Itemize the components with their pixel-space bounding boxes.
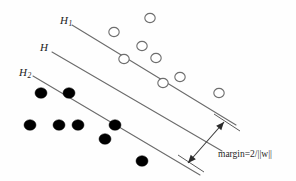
open-circle-marker bbox=[137, 41, 147, 50]
filled-dot-marker bbox=[136, 156, 148, 167]
filled-dot-marker bbox=[72, 120, 84, 131]
open-circle-marker bbox=[151, 53, 161, 62]
hyperplane-label-h: H bbox=[39, 41, 49, 53]
filled-dot-marker bbox=[109, 120, 121, 131]
open-circle-marker bbox=[145, 13, 155, 22]
filled-dot-marker bbox=[53, 120, 65, 131]
figure-canvas: H1HH2 margin=2/||w|| bbox=[0, 0, 296, 181]
margin-caption-label: margin=2/||w|| bbox=[218, 149, 272, 159]
filled-dot-marker bbox=[35, 88, 47, 99]
filled-dot-marker bbox=[99, 134, 111, 145]
open-circle-marker bbox=[109, 27, 119, 36]
open-circle-marker bbox=[214, 88, 224, 97]
filled-dot-marker bbox=[24, 120, 36, 131]
margin-caption-group: margin=2/||w|| bbox=[218, 149, 272, 159]
open-circle-marker bbox=[158, 78, 168, 87]
open-circle-marker bbox=[175, 72, 185, 81]
svm-margin-figure: H1HH2 margin=2/||w|| bbox=[0, 0, 296, 181]
open-circle-marker bbox=[119, 54, 129, 63]
filled-dot-marker bbox=[63, 88, 75, 99]
